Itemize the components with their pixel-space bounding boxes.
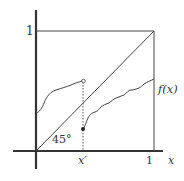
- function-curve-left: [36, 81, 82, 113]
- x-prime-label: x′: [78, 154, 87, 167]
- function-curve-right: [83, 79, 154, 129]
- function-label: f(x): [157, 82, 178, 96]
- x-axis-one-label: 1: [146, 154, 153, 167]
- angle-label: 45°: [52, 133, 72, 146]
- fixed-point-diagram: 1 f(x) 45° x′ 1 x: [0, 0, 184, 181]
- closed-dot-marker: [81, 127, 85, 131]
- y-axis-one-label: 1: [26, 24, 34, 38]
- x-axis-label: x: [168, 154, 175, 167]
- open-circle-marker: [82, 79, 86, 83]
